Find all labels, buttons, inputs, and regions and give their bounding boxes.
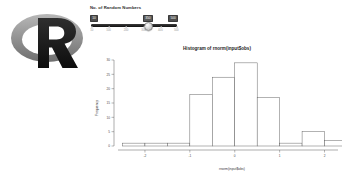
y-axis: 051015202530: [106, 58, 114, 148]
slider-tick: 200: [124, 28, 129, 32]
histogram-bar: [235, 63, 257, 146]
x-axis: -2-1012: [118, 150, 338, 158]
histogram-bar: [280, 143, 302, 146]
histogram-bar: [167, 143, 189, 146]
x-tick-label: -2: [144, 154, 147, 158]
shiny-app-page: No. of Random Numbers 10 350 500 10 100 …: [0, 0, 345, 176]
slider-control[interactable]: 10 350 500 10 100 200 300 400 500: [90, 15, 178, 32]
histogram-bar: [145, 143, 167, 146]
slider-max-badge: 500: [168, 15, 178, 22]
x-tick-label: 0: [234, 154, 236, 158]
slider-tick: 500: [174, 28, 179, 32]
y-tick-label: 30: [106, 58, 110, 62]
histogram-bars: [122, 63, 342, 146]
x-axis-label: rnorm(input$obs): [219, 167, 245, 171]
histogram-bar: [257, 97, 279, 146]
slider-tick: 100: [106, 28, 111, 32]
slider-tick-row: 10 100 200 300 400 500: [90, 28, 178, 33]
y-tick-label: 20: [106, 87, 110, 91]
x-tick-label: 1: [279, 154, 281, 158]
slider-label: No. of Random Numbers: [90, 5, 178, 11]
x-tick-label: 2: [324, 154, 326, 158]
r-logo: [8, 10, 86, 72]
y-tick-label: 5: [108, 130, 110, 134]
slider-tick: 400: [158, 28, 163, 32]
slider-tick: 300: [141, 28, 146, 32]
histogram-bar: [302, 132, 324, 146]
y-tick-label: 25: [106, 73, 110, 77]
y-tick-label: 0: [108, 144, 110, 148]
histogram-bar: [122, 143, 144, 146]
slider-min-badge: 10: [90, 15, 98, 22]
slider-tick: 10: [90, 28, 93, 32]
slider-track[interactable]: [91, 24, 177, 27]
histogram-bar: [212, 77, 234, 146]
slider-panel: No. of Random Numbers 10 350 500 10 100 …: [90, 5, 178, 32]
slider-value-badge: 350: [143, 15, 153, 22]
y-tick-label: 10: [106, 116, 110, 120]
histogram-bar: [325, 140, 342, 146]
histogram-plot: Histogram of rnorm(input$obs) 0510152025…: [92, 42, 342, 174]
plot-title: Histogram of rnorm(input$obs): [183, 46, 251, 51]
y-axis-label: Frequency: [95, 100, 99, 116]
histogram-bar: [190, 94, 212, 146]
x-tick-label: -1: [188, 154, 191, 158]
y-tick-label: 15: [106, 101, 110, 105]
